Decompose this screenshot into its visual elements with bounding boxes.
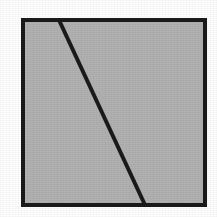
figure-canvas xyxy=(0,0,217,217)
square-fill xyxy=(23,20,205,205)
square-diagram xyxy=(0,0,217,217)
